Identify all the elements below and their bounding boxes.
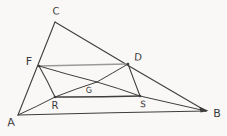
point-label-B: B xyxy=(213,107,221,120)
segment-G-S xyxy=(97,82,140,96)
sketch-paper: CFDGRSAB xyxy=(0,0,227,136)
point-label-G: G xyxy=(86,86,93,95)
point-label-S: S xyxy=(140,99,147,109)
junction-dot-R xyxy=(54,96,57,99)
segment-F-D xyxy=(39,64,128,66)
triangle-figure: CFDGRSAB xyxy=(0,0,227,136)
point-label-C: C xyxy=(52,5,60,16)
junction-dot-D xyxy=(127,63,130,66)
point-label-D: D xyxy=(134,51,143,63)
point-label-A: A xyxy=(7,116,16,130)
segment-F-G xyxy=(39,66,97,82)
segment-S-B xyxy=(140,96,206,111)
segment-A-C xyxy=(18,22,55,115)
junction-dot-S xyxy=(139,95,142,98)
segment-G-D xyxy=(97,64,128,82)
junction-dot-F xyxy=(38,65,41,68)
segment-R-S xyxy=(55,96,140,97)
arrowhead-at-B xyxy=(200,107,209,113)
point-label-R: R xyxy=(52,100,59,111)
segment-A-B xyxy=(18,111,206,115)
segment-F-R xyxy=(39,66,55,97)
point-label-F: F xyxy=(26,55,32,68)
